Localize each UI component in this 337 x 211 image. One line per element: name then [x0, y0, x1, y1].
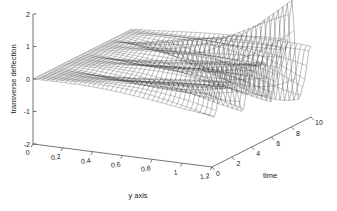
mesh-surface	[33, 0, 311, 117]
x-tick-label-0-8: 0.8	[140, 164, 151, 172]
mesh-line	[62, 64, 241, 111]
mesh-line	[198, 10, 297, 113]
x-axis-tick-labels: 0 0.2 0.4 0.6 0.8 1 1.2	[25, 149, 210, 180]
x-tick-label-1: 1	[173, 169, 178, 176]
x-tick-label-0-6: 0.6	[110, 161, 121, 169]
y-axis-tick-labels: 0 2 4 6 8 10	[216, 119, 323, 177]
mesh-line	[74, 31, 173, 84]
mesh-line	[79, 32, 178, 85]
x-tick-0-2	[61, 148, 63, 151]
time-tick-label-0: 0	[216, 170, 220, 177]
mesh-line	[61, 31, 160, 82]
x-tick-label-0-4: 0.4	[80, 157, 91, 165]
z-tick-label-0: 0	[26, 76, 30, 83]
mesh-line	[207, 4, 306, 116]
z-axis-tick-labels: 2 1 0 -1 -2	[24, 11, 30, 148]
time-tick-6	[271, 137, 274, 140]
x-tick-0-4	[91, 152, 93, 155]
mesh-line	[47, 30, 146, 81]
matlab-figure-window: 2 1 0 -1 -2 0 0.2 0.4 0.6 0.8 1 1.2	[0, 0, 337, 211]
z-tick-label-neg2: -2	[24, 141, 30, 148]
time-tick-label-6: 6	[276, 140, 280, 147]
x-tick-label-0: 0	[25, 149, 30, 156]
time-tick-4	[252, 147, 255, 150]
mesh-line	[212, 0, 311, 117]
time-tick-8	[291, 127, 294, 130]
time-tick-label-8: 8	[296, 130, 300, 137]
time-tick-label-10: 10	[315, 119, 323, 126]
time-tick-2	[232, 157, 235, 160]
time-tick-label-4: 4	[256, 150, 260, 157]
z-tick-label-1: 1	[26, 43, 30, 50]
x-tick-0-8	[151, 159, 153, 162]
time-tick-label-2: 2	[237, 160, 241, 167]
x-tick-1-2	[210, 167, 212, 170]
time-tick-0	[212, 167, 215, 170]
z-axis-title: transverse deflection	[9, 44, 18, 113]
y-axis-line	[212, 117, 311, 167]
x-tick-1	[180, 163, 182, 166]
surface-plot-canvas: 2 1 0 -1 -2 0 0.2 0.4 0.6 0.8 1 1.2	[0, 0, 337, 211]
mesh-line	[33, 79, 212, 116]
y-axis-title: time	[263, 171, 277, 180]
z-tick-label-2: 2	[26, 11, 30, 18]
x-tick-0-6	[121, 156, 123, 159]
x-tick-label-0-2: 0.2	[50, 153, 61, 161]
z-tick-label-neg1: -1	[24, 108, 30, 115]
y-axis-ticks	[212, 117, 314, 170]
x-axis-title: y axis	[128, 191, 147, 200]
x-tick-0	[31, 144, 33, 147]
x-tick-label-1-2: 1.2	[199, 172, 210, 180]
time-tick-10	[311, 117, 314, 120]
mesh-line	[35, 78, 214, 117]
mesh-line	[83, 32, 182, 86]
